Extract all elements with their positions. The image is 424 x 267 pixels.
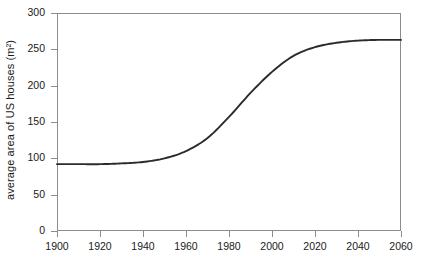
chart-figure: average area of US houses (m²) 050100150… xyxy=(0,0,424,267)
y-tick-label-150: 150 xyxy=(27,115,45,127)
x-tick-label-2040: 2040 xyxy=(336,240,380,252)
x-tick-1920 xyxy=(100,231,101,237)
x-tick-label-1940: 1940 xyxy=(121,240,165,252)
x-tick-label-2020: 2020 xyxy=(293,240,337,252)
x-tick-2060 xyxy=(401,231,402,237)
x-tick-label-1920: 1920 xyxy=(78,240,122,252)
x-tick-1980 xyxy=(229,231,230,237)
y-tick-label-100: 100 xyxy=(27,151,45,163)
x-tick-label-2060: 2060 xyxy=(379,240,423,252)
x-tick-2000 xyxy=(272,231,273,237)
y-tick-label-50: 50 xyxy=(33,188,45,200)
x-tick-1960 xyxy=(186,231,187,237)
y-tick-label-200: 200 xyxy=(27,79,45,91)
x-tick-1940 xyxy=(143,231,144,237)
series-line-layer xyxy=(57,13,401,231)
x-tick-label-1900: 1900 xyxy=(35,240,79,252)
y-tick-label-0: 0 xyxy=(39,224,45,236)
y-tick-100 xyxy=(51,158,57,159)
series-line-average-area xyxy=(57,40,401,164)
y-tick-200 xyxy=(51,86,57,87)
y-tick-150 xyxy=(51,122,57,123)
x-tick-2020 xyxy=(315,231,316,237)
x-tick-label-2000: 2000 xyxy=(250,240,294,252)
y-tick-label-250: 250 xyxy=(27,42,45,54)
y-tick-50 xyxy=(51,195,57,196)
y-axis-title: average area of US houses (m²) xyxy=(4,40,16,200)
y-tick-250 xyxy=(51,49,57,50)
x-tick-2040 xyxy=(358,231,359,237)
x-tick-1900 xyxy=(57,231,58,237)
x-tick-label-1980: 1980 xyxy=(207,240,251,252)
x-tick-label-1960: 1960 xyxy=(164,240,208,252)
y-axis-title-wrap: average area of US houses (m²) xyxy=(0,0,20,240)
y-tick-label-300: 300 xyxy=(27,6,45,18)
y-tick-300 xyxy=(51,13,57,14)
